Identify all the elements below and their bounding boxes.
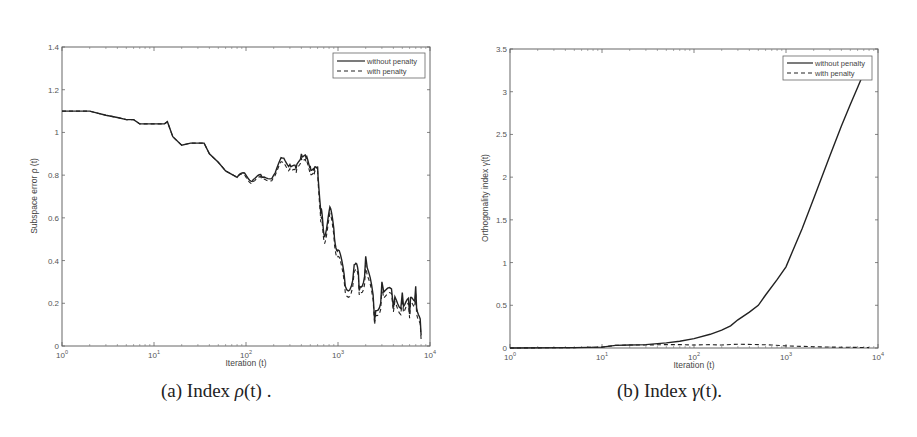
caption-a-symbol: ρ (235, 380, 244, 401)
left-data-lines (62, 111, 421, 340)
y-tick-label: 0.4 (48, 257, 60, 266)
right-data-lines (510, 58, 869, 349)
series-without-penalty (510, 58, 869, 349)
left-x-ticks: 100101102103104 (56, 47, 436, 360)
series-with-penalty (62, 111, 421, 340)
legend-dashed-label: with penalty (366, 67, 407, 76)
caption-a-prefix: (a) Index (161, 380, 235, 401)
y-tick-label: 1 (503, 259, 508, 268)
right-legend: without penalty with penalty (783, 56, 872, 80)
y-tick-label: 0.8 (48, 171, 60, 180)
series-without-penalty (62, 111, 421, 335)
chart-subspace-error: 00.20.40.60.811.21.4 100101102103104 Ite… (29, 43, 436, 368)
caption-a: (a) Index ρ(t) . (161, 380, 271, 402)
chart-orthogonality-index: 00.511.522.533.5 100101102103104 Iterati… (480, 45, 884, 370)
caption-a-arg: (t) (244, 380, 262, 401)
x-tick-label: 103 (780, 351, 792, 362)
caption-b: (b) Index γ(t). (617, 380, 722, 402)
right-x-ticks: 100101102103104 (504, 49, 884, 362)
left-y-ticks: 00.20.40.60.811.21.4 (48, 43, 430, 351)
caption-a-suffix: . (262, 380, 272, 401)
y-tick-label: 2 (503, 173, 508, 182)
left-y-axis-label: Subspace error ρ (t) (29, 158, 39, 234)
x-tick-label: 104 (424, 349, 436, 360)
caption-b-prefix: (b) Index (617, 380, 692, 401)
left-legend: without penalty with penalty (333, 53, 425, 78)
y-tick-label: 0.2 (48, 299, 60, 308)
y-tick-label: 1.2 (48, 86, 60, 95)
y-tick-label: 0 (503, 344, 508, 353)
y-tick-label: 1 (55, 128, 60, 137)
y-tick-label: 1.5 (496, 216, 508, 225)
x-tick-label: 103 (332, 349, 344, 360)
figure-canvas: 00.20.40.60.811.21.4 100101102103104 Ite… (0, 0, 917, 437)
x-tick-label: 100 (56, 349, 68, 360)
x-tick-label: 100 (504, 351, 516, 362)
y-tick-label: 3 (503, 88, 508, 97)
right-plot-frame (510, 49, 878, 348)
y-tick-label: 0.5 (496, 301, 508, 310)
caption-b-suffix: . (717, 380, 722, 401)
y-tick-label: 1.4 (48, 43, 60, 52)
y-tick-label: 3.5 (496, 45, 508, 54)
legend-dashed-label: with penalty (814, 69, 855, 78)
x-tick-label: 101 (148, 349, 160, 360)
y-tick-label: 2.5 (496, 130, 508, 139)
left-x-axis-label: Iteration (t) (225, 358, 266, 368)
legend-solid-label: without penalty (366, 57, 417, 66)
right-y-ticks: 00.511.522.533.5 (496, 45, 878, 353)
x-tick-label: 104 (872, 351, 884, 362)
caption-b-arg: (t) (699, 380, 717, 401)
x-tick-label: 101 (596, 351, 608, 362)
right-x-axis-label: Iteration (t) (673, 360, 714, 370)
y-tick-label: 0.6 (48, 214, 60, 223)
left-plot-frame (62, 47, 430, 346)
right-y-axis-label: Orthogonality index γ(t) (480, 154, 490, 242)
y-tick-label: 0 (55, 342, 60, 351)
legend-solid-label: without penalty (814, 59, 865, 68)
